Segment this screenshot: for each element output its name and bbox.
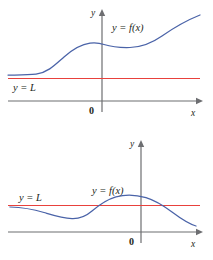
top-x-axis-label: x (190, 108, 196, 118)
top-function-label: y = f(x) (111, 22, 144, 34)
top-asymptote-label: y = L (12, 82, 36, 93)
bottom-x-axis-label: x (190, 239, 196, 249)
limit-figure-svg: y = f(x) y = L y x 0 y = f(x) y = L y x … (0, 0, 213, 260)
bottom-y-axis-label: y (129, 139, 135, 149)
limit-figure-container: y = f(x) y = L y x 0 y = f(x) y = L y x … (0, 0, 213, 260)
top-y-axis-label: y (90, 8, 96, 18)
bottom-asymptote-label: y = L (18, 192, 42, 203)
figure-background (0, 0, 213, 260)
bottom-function-label: y = f(x) (91, 185, 124, 197)
bottom-origin-label: 0 (129, 236, 134, 247)
top-origin-label: 0 (89, 105, 94, 116)
